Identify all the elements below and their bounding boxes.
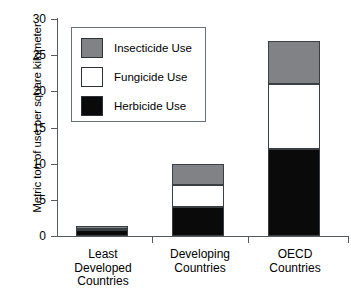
y-tick-label-15: 15	[6, 122, 46, 134]
legend-swatch-insecticide-icon	[81, 38, 103, 58]
x-axis-line	[57, 236, 349, 237]
x-axis-label-developing-countries: Developing Countries	[155, 248, 245, 275]
legend-entry-insecticide-use: Insecticide Use	[81, 37, 192, 59]
x-axis-label-least-developed-countries: Least Developed Countries	[62, 248, 144, 289]
y-tick-label-20: 20	[6, 85, 46, 97]
x-label-line: Least	[62, 248, 144, 262]
x-tick-separator-3	[348, 236, 349, 243]
bar-segment-herbicide-oecd	[268, 149, 320, 236]
pesticide-use-stacked-bar-chart: Metric ton of use per square kilometer 3…	[0, 0, 351, 301]
y-tick-label-5: 5	[6, 194, 46, 206]
x-label-line: OECD	[252, 248, 338, 262]
legend-entry-herbicide-use: Herbicide Use	[81, 95, 186, 117]
legend-swatch-herbicide-icon	[81, 96, 103, 116]
x-tick-separator-1	[152, 236, 153, 243]
y-tick-label-0: 0	[6, 230, 46, 242]
legend-label-fungicide-use: Fungicide Use	[114, 71, 188, 83]
legend-label-insecticide-use: Insecticide Use	[114, 42, 192, 54]
legend-swatch-fungicide-icon	[81, 67, 103, 87]
bar-oecd-countries	[268, 41, 320, 236]
legend-label-herbicide-use: Herbicide Use	[114, 100, 186, 112]
x-label-line: Countries	[252, 262, 338, 276]
bar-segment-herbicide-developing	[172, 207, 224, 236]
bar-segment-herbicide-least-developed	[76, 230, 128, 236]
bar-least-developed-countries	[76, 226, 128, 236]
x-axis-label-oecd-countries: OECD Countries	[252, 248, 338, 275]
bar-segment-insecticide-oecd	[268, 41, 320, 84]
y-tick-label-10: 10	[6, 158, 46, 170]
y-axis-line	[57, 18, 58, 237]
bar-segment-insecticide-developing	[172, 164, 224, 186]
y-tick-label-30: 30	[6, 13, 46, 25]
bar-segment-fungicide-oecd	[268, 84, 320, 149]
x-label-line: Countries	[62, 275, 144, 289]
x-label-line: Developed	[62, 262, 144, 276]
chart-legend: Insecticide Use Fungicide Use Herbicide …	[71, 27, 206, 122]
y-tick-label-25: 25	[6, 49, 46, 61]
x-label-line: Countries	[155, 262, 245, 276]
x-label-line: Developing	[155, 248, 245, 262]
bar-developing-countries	[172, 164, 224, 236]
bar-segment-insecticide-least-developed	[76, 226, 128, 229]
legend-entry-fungicide-use: Fungicide Use	[81, 66, 188, 88]
x-tick-separator-2	[248, 236, 249, 243]
bar-segment-fungicide-developing	[172, 185, 224, 207]
